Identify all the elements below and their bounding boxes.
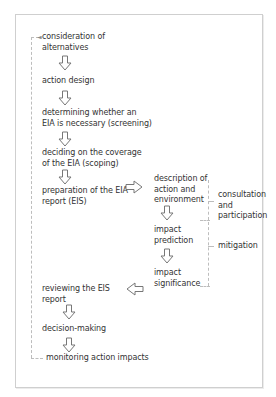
bracket-divider bbox=[200, 220, 210, 221]
consultation-tick bbox=[208, 201, 214, 202]
down-arrow-icon bbox=[62, 337, 76, 353]
step-reviewing-eis: reviewing the EIS report bbox=[42, 284, 110, 305]
feedback-loop-line bbox=[31, 37, 32, 358]
down-arrow-icon bbox=[58, 169, 72, 185]
step-scoping: deciding on the coverage of the EIA (sco… bbox=[42, 148, 142, 169]
down-arrow-icon bbox=[160, 248, 174, 264]
left-arrow-icon bbox=[126, 282, 144, 296]
mitigation-tick bbox=[208, 246, 214, 247]
step-monitoring: monitoring action impacts bbox=[46, 353, 149, 364]
note-consultation-participation: consultation and participation bbox=[218, 190, 267, 222]
substep-impact-significance: impact significance bbox=[154, 268, 200, 289]
feedback-loop-bottom bbox=[31, 358, 43, 359]
down-arrow-icon bbox=[58, 90, 72, 106]
down-arrow-icon bbox=[58, 55, 72, 71]
right-arrow-icon bbox=[125, 180, 143, 194]
mitigation-bracket bbox=[208, 222, 209, 286]
substep-description: description of action and environment bbox=[154, 174, 207, 206]
down-arrow-icon bbox=[58, 131, 72, 147]
feedback-arrowhead-icon: ◄ bbox=[37, 34, 42, 40]
consultation-bracket bbox=[208, 180, 209, 220]
down-arrow-icon bbox=[62, 304, 76, 320]
step-preparation-eis: preparation of the EIA report (EIS) bbox=[42, 186, 128, 207]
step-consideration-of-alternatives: consideration of alternatives bbox=[42, 32, 105, 53]
note-mitigation: mitigation bbox=[218, 241, 258, 252]
down-arrow-icon bbox=[160, 205, 174, 221]
step-screening: determining whether an EIA is necessary … bbox=[42, 108, 152, 129]
step-action-design: action design bbox=[42, 76, 94, 87]
substep-impact-prediction: impact prediction bbox=[154, 225, 193, 246]
step-decision-making: decision-making bbox=[42, 324, 106, 335]
bracket-bottom bbox=[200, 286, 210, 287]
